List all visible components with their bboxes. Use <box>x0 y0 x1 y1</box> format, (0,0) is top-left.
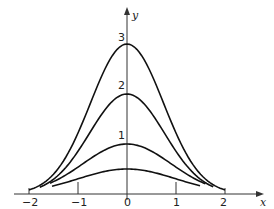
curve-series-2 <box>50 144 205 184</box>
x-tick-label: 2 <box>220 196 227 209</box>
x-tick-label: −2 <box>22 196 38 209</box>
peak-label-2: 2 <box>118 79 125 92</box>
x-tick-label: −1 <box>71 196 87 209</box>
x-axis-label: x <box>260 196 267 209</box>
peak-label-3: 3 <box>118 31 125 44</box>
curve-series-3 <box>52 169 200 186</box>
y-axis-label: y <box>131 9 139 22</box>
peak-label-1: 1 <box>118 129 125 142</box>
x-tick-label: 0 <box>124 196 131 209</box>
x-tick-label: 1 <box>173 196 180 209</box>
y-axis-arrow-icon <box>124 7 130 15</box>
chart: −2 −1 0 1 2 x y 3 2 1 <box>0 0 274 209</box>
